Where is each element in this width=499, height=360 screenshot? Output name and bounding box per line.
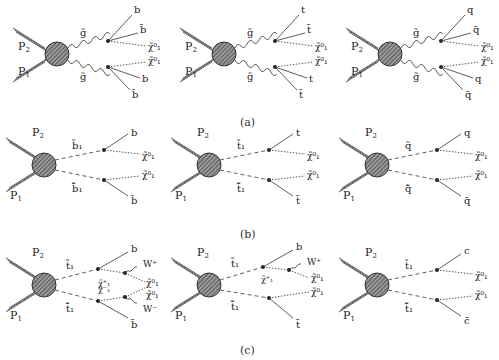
svg-text:χ̃⁰₁: χ̃⁰₁ bbox=[475, 271, 488, 281]
feynman-diagram-figure: P2 P1 g̃ g̃ b b̄ χ̃⁰₁ χ̃⁰₁ b b̄ P2 P1 bbox=[0, 0, 499, 360]
diagram-c2: P2 P1 t̃₁ t̃̄₁ χ̃⁺₁ b W⁺ χ̃⁰₁ χ̃⁰₁ t̄ bbox=[171, 241, 324, 330]
svg-text:χ̃⁰₁: χ̃⁰₁ bbox=[315, 42, 328, 52]
svg-text:P2: P2 bbox=[197, 126, 209, 140]
svg-text:t̃̄₁: t̃̄₁ bbox=[236, 182, 245, 194]
svg-text:b: b bbox=[131, 243, 137, 254]
svg-text:χ̃⁰₁: χ̃⁰₁ bbox=[311, 273, 324, 283]
svg-text:q̄: q̄ bbox=[464, 195, 471, 206]
svg-text:χ̃⁰₁: χ̃⁰₁ bbox=[481, 56, 494, 66]
svg-text:q: q bbox=[475, 73, 482, 84]
svg-text:t̄: t̄ bbox=[296, 319, 300, 330]
svg-text:χ̃⁰₁: χ̃⁰₁ bbox=[142, 151, 155, 161]
diagram-a1: P2 P1 g̃ g̃ b b̄ χ̃⁰₁ χ̃⁰₁ b b̄ bbox=[13, 4, 161, 100]
svg-text:b: b bbox=[142, 73, 148, 84]
svg-text:P1: P1 bbox=[185, 65, 197, 79]
svg-text:t̃̄₁: t̃̄₁ bbox=[404, 302, 413, 314]
svg-text:χ̃⁰₁: χ̃⁰₁ bbox=[142, 170, 155, 180]
svg-text:χ̃⁰₁: χ̃⁰₁ bbox=[475, 151, 488, 161]
svg-text:P1: P1 bbox=[343, 309, 355, 323]
svg-text:χ̃⁰₁: χ̃⁰₁ bbox=[307, 170, 320, 180]
svg-text:χ̃⁺₁: χ̃⁺₁ bbox=[261, 275, 273, 284]
gluon-line-bottom bbox=[68, 60, 110, 76]
svg-text:P2: P2 bbox=[32, 246, 44, 260]
svg-text:P2: P2 bbox=[351, 40, 363, 54]
svg-text:b̄: b̄ bbox=[140, 24, 146, 35]
svg-text:P2: P2 bbox=[365, 246, 377, 260]
svg-text:b: b bbox=[134, 4, 140, 15]
svg-text:t: t bbox=[309, 73, 313, 84]
svg-text:P1: P1 bbox=[10, 309, 22, 323]
svg-text:χ̃⁻₁: χ̃⁻₁ bbox=[98, 285, 110, 294]
svg-text:t: t bbox=[301, 4, 305, 15]
svg-text:b̄: b̄ bbox=[131, 195, 137, 206]
label-gluino-top: g̃ bbox=[80, 27, 87, 38]
diagram-b3: P2 P1 q̃ q̃̄ q χ̃⁰₁ χ̃⁰₁ q̄ bbox=[339, 126, 488, 206]
caption-b: (b) bbox=[240, 228, 256, 241]
svg-text:χ̃⁰₁: χ̃⁰₁ bbox=[475, 170, 488, 180]
diagram-a2: P2 P1 g̃ g̃ t t̄ χ̃⁰₁ χ̃⁰₁ t t̄ bbox=[180, 4, 328, 100]
diagram-b2: P2 P1 t̃₁ t̃̄₁ t χ̃⁰₁ χ̃⁰₁ t̄ bbox=[171, 126, 320, 206]
svg-text:P2: P2 bbox=[197, 246, 209, 260]
svg-text:b: b bbox=[296, 241, 302, 252]
svg-text:t̃̄₁: t̃̄₁ bbox=[230, 300, 239, 312]
svg-text:g̃: g̃ bbox=[413, 71, 420, 82]
svg-text:q̃: q̃ bbox=[405, 140, 412, 151]
svg-text:χ̃⁰₁: χ̃⁰₁ bbox=[146, 278, 159, 288]
label-p2: P2 bbox=[18, 40, 30, 54]
gluon-line-top bbox=[68, 32, 110, 48]
diagram-c1: P2 P1 t̃₁ t̃̄₁ χ̃⁺₁ χ̃⁻₁ b W⁺ χ̃⁰₁ χ̃⁰₁ … bbox=[6, 243, 159, 330]
svg-text:t̃̄₁: t̃̄₁ bbox=[65, 302, 74, 314]
svg-text:t̃₁: t̃₁ bbox=[404, 259, 413, 271]
svg-text:g̃: g̃ bbox=[413, 27, 420, 38]
svg-text:t̄: t̄ bbox=[299, 89, 303, 100]
svg-text:χ̃⁰₁: χ̃⁰₁ bbox=[481, 42, 494, 52]
svg-text:P1: P1 bbox=[175, 309, 187, 323]
svg-text:W⁺: W⁺ bbox=[143, 259, 157, 269]
svg-text:χ̃⁰₁: χ̃⁰₁ bbox=[315, 56, 328, 66]
svg-text:P2: P2 bbox=[365, 126, 377, 140]
svg-text:b: b bbox=[131, 127, 137, 138]
svg-text:c̄: c̄ bbox=[464, 315, 470, 326]
svg-text:t̃₁: t̃₁ bbox=[230, 257, 239, 269]
diagram-b1: P2 P1 b̃₁ b̃̄₁ b χ̃⁰₁ χ̃⁰₁ b̄ bbox=[6, 126, 155, 206]
svg-text:g̃: g̃ bbox=[247, 27, 254, 38]
svg-text:q̃̄: q̃̄ bbox=[405, 183, 412, 194]
label-p1: P1 bbox=[18, 65, 30, 79]
svg-text:q̄: q̄ bbox=[473, 24, 480, 35]
svg-text:t̄: t̄ bbox=[296, 195, 300, 206]
svg-text:b̄: b̄ bbox=[132, 89, 138, 100]
svg-text:P1: P1 bbox=[351, 65, 363, 79]
svg-text:W⁻: W⁻ bbox=[143, 304, 157, 314]
caption-c: (c) bbox=[240, 344, 255, 357]
caption-a: (a) bbox=[240, 116, 255, 129]
svg-text:t̄: t̄ bbox=[307, 24, 311, 35]
svg-text:χ̃⁰₁: χ̃⁰₁ bbox=[148, 42, 161, 52]
svg-text:χ̃⁰₁: χ̃⁰₁ bbox=[148, 56, 161, 66]
svg-text:t: t bbox=[296, 127, 300, 138]
svg-text:t̃₁: t̃₁ bbox=[236, 139, 245, 151]
svg-text:χ̃⁰₁: χ̃⁰₁ bbox=[311, 287, 324, 297]
svg-text:t̃₁: t̃₁ bbox=[65, 259, 74, 271]
diagram-c3: P2 P1 t̃₁ t̃̄₁ c χ̃⁰₁ χ̃⁰₁ c̄ bbox=[339, 245, 488, 326]
svg-text:P1: P1 bbox=[10, 189, 22, 203]
svg-text:P1: P1 bbox=[343, 189, 355, 203]
svg-text:b̃̄₁: b̃̄₁ bbox=[71, 182, 82, 194]
svg-text:P2: P2 bbox=[185, 40, 197, 54]
svg-text:P1: P1 bbox=[175, 189, 187, 203]
diagram-a3: P2 P1 g̃ g̃ q q̄ χ̃⁰₁ χ̃⁰₁ q q̄ bbox=[346, 4, 494, 100]
svg-text:b̃₁: b̃₁ bbox=[71, 139, 82, 151]
svg-text:P2: P2 bbox=[32, 126, 44, 140]
svg-text:b̄: b̄ bbox=[131, 319, 137, 330]
svg-text:g̃: g̃ bbox=[247, 71, 254, 82]
svg-text:c: c bbox=[464, 245, 470, 256]
svg-text:q: q bbox=[464, 127, 471, 138]
svg-text:W⁺: W⁺ bbox=[307, 257, 321, 267]
svg-text:χ̃⁰₁: χ̃⁰₁ bbox=[146, 290, 159, 300]
label-gluino-bottom: g̃ bbox=[80, 71, 87, 82]
svg-text:χ̃⁰₁: χ̃⁰₁ bbox=[475, 290, 488, 300]
svg-text:χ̃⁰₁: χ̃⁰₁ bbox=[307, 151, 320, 161]
svg-text:q̄: q̄ bbox=[465, 89, 472, 100]
svg-text:q: q bbox=[467, 4, 474, 15]
